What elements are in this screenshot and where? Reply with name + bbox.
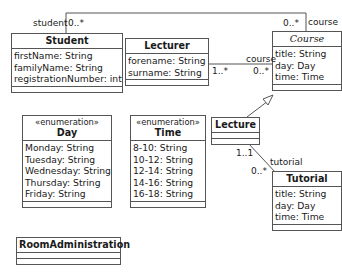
enum-literal: Monday: String bbox=[25, 142, 109, 154]
class-header: «enumeration» Day bbox=[23, 116, 111, 141]
attribute: registrationNumber: int bbox=[14, 73, 120, 85]
class-name: Course bbox=[275, 33, 339, 45]
multiplicity-lecturer: 1..* bbox=[212, 66, 228, 76]
enum-literal: 8-10: String bbox=[133, 142, 203, 154]
role-label-student: student bbox=[33, 18, 67, 28]
enum-literal: Thursday: String bbox=[25, 177, 109, 189]
class-operations bbox=[273, 225, 341, 230]
stereotype-label: «enumeration» bbox=[25, 117, 109, 127]
multiplicity-tutorial: 0..* bbox=[251, 166, 267, 176]
enum-literal: Wednesday: String bbox=[25, 165, 109, 177]
class-name: Time bbox=[133, 127, 203, 139]
class-operations bbox=[212, 139, 259, 144]
class-operations bbox=[23, 202, 111, 207]
enum-literals: Monday: String Tuesday: String Wednesday… bbox=[23, 141, 111, 202]
class-header: «enumeration» Time bbox=[131, 116, 205, 141]
class-name: Tutorial bbox=[275, 173, 339, 185]
enum-literals: 8-10: String 10-12: String 12-14: String… bbox=[131, 141, 205, 202]
class-attributes: firstName: String familyName: String reg… bbox=[12, 49, 122, 87]
class-name: Lecturer bbox=[128, 40, 206, 52]
attribute: time: Time bbox=[275, 211, 339, 223]
class-header: Lecturer bbox=[126, 39, 208, 54]
class-operations bbox=[273, 85, 341, 90]
attribute: firstName: String bbox=[14, 50, 120, 62]
class-name: Student bbox=[14, 35, 120, 47]
attribute: surname: String bbox=[128, 67, 206, 79]
stereotype-label: «enumeration» bbox=[133, 117, 203, 127]
multiplicity-lecture: 1..1 bbox=[236, 148, 253, 158]
association-student-course bbox=[66, 13, 306, 33]
class-lecturer[interactable]: Lecturer forename: String surname: Strin… bbox=[125, 38, 209, 86]
class-course[interactable]: Course title: String day: Day time: Time bbox=[272, 31, 342, 91]
class-student[interactable]: Student firstName: String familyName: St… bbox=[11, 33, 123, 93]
enum-day[interactable]: «enumeration» Day Monday: String Tuesday… bbox=[22, 115, 112, 208]
class-attributes: title: String day: Day time: Time bbox=[273, 187, 341, 225]
class-name: Lecture bbox=[214, 119, 257, 131]
class-operations bbox=[17, 259, 120, 264]
class-attributes: title: String day: Day time: Time bbox=[273, 47, 341, 85]
class-header: Student bbox=[12, 34, 122, 49]
attribute: title: String bbox=[275, 188, 339, 200]
class-operations bbox=[126, 80, 208, 85]
class-name: Day bbox=[25, 127, 109, 139]
class-header: Tutorial bbox=[273, 172, 341, 187]
attribute: day: Day bbox=[275, 60, 339, 72]
role-label-tutorial: tutorial bbox=[270, 157, 302, 167]
class-header: Lecture bbox=[212, 118, 259, 133]
attribute: familyName: String bbox=[14, 62, 120, 74]
attribute: time: Time bbox=[275, 71, 339, 83]
role-label-course-lecturer: course bbox=[246, 54, 276, 64]
class-operations bbox=[12, 87, 122, 92]
class-header: Course bbox=[273, 32, 341, 47]
class-operations bbox=[131, 202, 205, 207]
enum-literal: Friday: String bbox=[25, 188, 109, 200]
generalization-lecture-course bbox=[247, 101, 268, 117]
enum-literal: 12-14: String bbox=[133, 165, 203, 177]
class-room-administration[interactable]: RoomAdministration bbox=[16, 237, 121, 265]
class-tutorial[interactable]: Tutorial title: String day: Day time: Ti… bbox=[272, 171, 342, 231]
uml-class-diagram: Student firstName: String familyName: St… bbox=[0, 0, 342, 275]
multiplicity-course-lecturer: 0..* bbox=[253, 66, 269, 76]
enum-literal: 14-16: String bbox=[133, 177, 203, 189]
class-lecture[interactable]: Lecture bbox=[211, 117, 260, 145]
enum-literal: 16-18: String bbox=[133, 188, 203, 200]
attribute: day: Day bbox=[275, 200, 339, 212]
class-name: RoomAdministration bbox=[19, 239, 118, 251]
class-header: RoomAdministration bbox=[17, 238, 120, 253]
multiplicity-course-student: 0..* bbox=[283, 18, 299, 28]
role-label-course-student: course bbox=[308, 17, 338, 27]
attribute: forename: String bbox=[128, 55, 206, 67]
enum-literal: 10-12: String bbox=[133, 154, 203, 166]
enum-literal: Tuesday: String bbox=[25, 154, 109, 166]
attribute: title: String bbox=[275, 48, 339, 60]
multiplicity-student: 0..* bbox=[68, 18, 84, 28]
enum-time[interactable]: «enumeration» Time 8-10: String 10-12: S… bbox=[130, 115, 206, 208]
class-attributes: forename: String surname: String bbox=[126, 54, 208, 80]
